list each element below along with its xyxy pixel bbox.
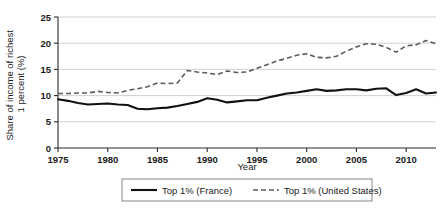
y-tick-label: 5	[46, 116, 52, 127]
income-share-line-chart: Share of income of richest 1 percent (%)…	[0, 0, 441, 213]
y-tick-label: 0	[46, 143, 51, 154]
x-tick-label: 2000	[296, 154, 317, 165]
legend-label-united-states: Top 1% (United States)	[284, 185, 382, 196]
gridlines	[58, 17, 436, 122]
x-tick-label: 2005	[346, 154, 368, 165]
x-tick-label: 1980	[97, 154, 118, 165]
y-tick-label: 10	[40, 90, 51, 101]
y-tick-label: 20	[40, 38, 51, 49]
x-tick-label: 1990	[197, 154, 218, 165]
series-line-united-states	[58, 41, 436, 94]
x-tick-label: 1985	[147, 154, 169, 165]
y-tick-label: 15	[40, 64, 51, 75]
legend: Top 1% (France) Top 1% (United States)	[122, 179, 382, 201]
y-axis-title: Share of income of richest 1 percent (%)	[4, 28, 26, 141]
x-axis-title: Year	[237, 161, 256, 172]
y-axis-title-group: Share of income of richest 1 percent (%)	[4, 28, 26, 141]
series-line-france	[58, 88, 436, 109]
x-axis-ticks: 19751980198519901995200020052010	[47, 148, 416, 165]
y-tick-label: 25	[40, 12, 51, 23]
chart-canvas: Share of income of richest 1 percent (%)…	[0, 0, 441, 213]
y-axis-ticks: 0510152025	[40, 12, 58, 154]
legend-label-france: Top 1% (France)	[162, 185, 232, 196]
x-tick-label: 1975	[47, 154, 69, 165]
x-tick-label: 2010	[396, 154, 417, 165]
